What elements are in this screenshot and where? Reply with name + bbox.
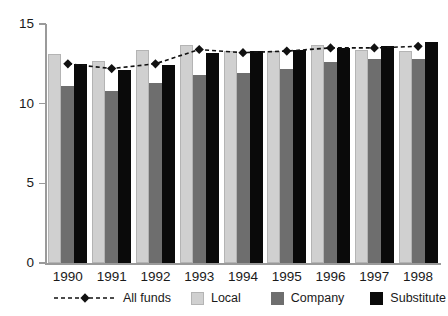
bar-company-1997 (368, 59, 381, 263)
bar-company-1995 (280, 69, 293, 263)
bar-company-1990 (61, 86, 74, 263)
bar-substitute-1995 (293, 50, 306, 264)
y-tick-mark (39, 183, 46, 185)
legend-item-all-funds: All funds (54, 292, 171, 305)
bar-company-1998 (412, 59, 425, 263)
y-tick-mark (39, 23, 46, 25)
bar-substitute-1991 (118, 70, 131, 263)
bar-substitute-1994 (250, 51, 263, 263)
bar-group-1991 (92, 24, 131, 263)
y-tick-mark (39, 262, 46, 264)
bar-substitute-1997 (381, 46, 394, 263)
y-tick-label: 5 (0, 176, 34, 190)
legend-label-company: Company (291, 292, 345, 305)
chart-container: 051015 199019911992199319941995199619971… (0, 0, 448, 316)
bar-local-1993 (180, 45, 193, 263)
bar-local-1994 (224, 51, 237, 263)
bar-local-1995 (267, 51, 280, 263)
bar-local-1991 (92, 61, 105, 263)
bar-company-1994 (237, 73, 250, 263)
bar-group-1997 (355, 24, 394, 263)
chart-legend: All funds Local Company Substitute (54, 288, 438, 308)
bar-group-1996 (311, 24, 350, 263)
bar-group-1990 (48, 24, 87, 263)
bar-substitute-1996 (337, 48, 350, 263)
bar-company-1996 (324, 62, 337, 263)
bar-group-1993 (180, 24, 219, 263)
bar-local-1992 (136, 50, 149, 264)
bar-local-1998 (399, 51, 412, 263)
bar-local-1996 (311, 45, 324, 263)
y-tick-label: 15 (0, 17, 34, 31)
bar-group-1998 (399, 24, 438, 263)
plot-area (46, 24, 440, 263)
bar-group-1995 (267, 24, 306, 263)
x-axis-line (45, 263, 441, 265)
local-swatch-icon (191, 292, 204, 305)
legend-label-substitute: Substitute (390, 292, 446, 305)
legend-item-local: Local (191, 292, 241, 305)
bar-substitute-1993 (206, 53, 219, 263)
bar-company-1993 (193, 75, 206, 263)
bar-substitute-1990 (74, 64, 87, 263)
legend-item-substitute: Substitute (370, 292, 446, 305)
legend-label-all-funds: All funds (123, 292, 171, 305)
legend-label-local: Local (211, 292, 241, 305)
bar-group-1992 (136, 24, 175, 263)
y-tick-mark (39, 103, 46, 105)
company-swatch-icon (271, 292, 284, 305)
bar-company-1991 (105, 91, 118, 263)
bar-local-1990 (48, 54, 61, 263)
bar-substitute-1992 (162, 65, 175, 263)
dashed-line-icon (54, 292, 116, 304)
substitute-swatch-icon (370, 292, 383, 305)
bar-company-1992 (149, 83, 162, 263)
x-tick-label-1998: 1998 (391, 270, 445, 284)
bar-substitute-1998 (425, 42, 438, 263)
y-tick-label: 10 (0, 97, 34, 111)
y-tick-label: 0 (0, 256, 34, 270)
legend-item-company: Company (271, 292, 345, 305)
bar-group-1994 (224, 24, 263, 263)
bar-local-1997 (355, 50, 368, 264)
